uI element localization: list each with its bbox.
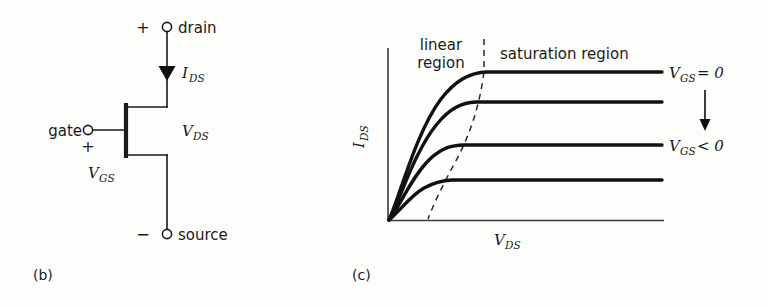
vds-label-sub: DS	[192, 130, 209, 142]
curve-vgs-2	[389, 145, 662, 220]
drain-plus-sign: +	[136, 18, 149, 37]
gate-label: gate	[48, 122, 82, 140]
figure-canvas: + drain I DS gate +	[0, 0, 768, 307]
vgs-lt-0-sub: GS	[680, 145, 696, 157]
y-axis-label: I DS	[350, 125, 370, 149]
source-label: source	[178, 226, 228, 244]
curve-label-vgs-less-than-zero: V GS < 0	[669, 137, 724, 157]
vgs-arrow-head	[700, 119, 711, 131]
saturation-region-label: saturation region	[500, 45, 629, 63]
ids-label-sub: DS	[188, 72, 205, 84]
vgs-decreasing-arrow-icon	[700, 90, 711, 131]
linear-region-label-line2: region	[417, 54, 464, 72]
panel-c-caption: (c)	[352, 267, 371, 283]
vgs-eq-0-sub: GS	[680, 72, 696, 84]
vgs-label-sub: GS	[99, 172, 115, 184]
gate-terminal-circle	[83, 125, 92, 134]
drain-terminal-circle	[162, 22, 171, 31]
panel-b-jfet-symbol: + drain I DS gate +	[33, 18, 228, 283]
drain-label: drain	[178, 19, 217, 37]
panel-c-characteristics: I DS V DS linear region saturation regio…	[350, 36, 724, 283]
gate-plus-sign: +	[81, 137, 94, 156]
curve-label-vgs-equals-zero: V GS = 0	[669, 64, 724, 84]
linear-region-label-line1: linear	[420, 36, 463, 54]
ids-label-var: I	[181, 64, 189, 82]
y-axis-label-sub: DS	[358, 125, 370, 142]
panel-b-caption: (b)	[33, 267, 53, 283]
source-minus-sign: −	[136, 225, 149, 244]
x-axis-label-sub: DS	[504, 239, 521, 251]
vgs-eq-0-rel: = 0	[697, 64, 724, 82]
curve-vgs-3	[389, 180, 662, 220]
y-axis-label-var: I	[350, 141, 368, 149]
drain-current-arrow-icon	[159, 66, 176, 81]
source-terminal-circle	[162, 229, 171, 238]
figure-page: + drain I DS gate +	[0, 0, 768, 307]
vgs-lt-0-rel: < 0	[697, 137, 724, 155]
